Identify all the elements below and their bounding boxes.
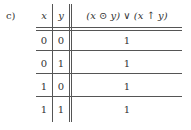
cell-x: 0 bbox=[36, 58, 52, 69]
cell-y: 0 bbox=[53, 81, 69, 92]
cell-result: 1 bbox=[72, 58, 182, 69]
truth-table: x y (x ⊙ y) ∨ (x ↑ y) 0 0 1 0 1 1 1 0 1 … bbox=[36, 0, 182, 122]
cell-x: 1 bbox=[36, 81, 52, 92]
header-divider bbox=[36, 27, 182, 28]
cell-y: 1 bbox=[53, 104, 69, 115]
row-divider bbox=[36, 96, 182, 97]
header-expression: (x ⊙ y) ∨ (x ↑ y) bbox=[72, 10, 182, 21]
header-y: y bbox=[53, 10, 69, 21]
part-label: c) bbox=[6, 10, 16, 21]
column-divider bbox=[69, 4, 70, 122]
row-divider bbox=[36, 50, 182, 51]
cell-y: 1 bbox=[53, 58, 69, 69]
cell-x: 0 bbox=[36, 35, 52, 46]
header-divider bbox=[36, 30, 182, 31]
row-divider bbox=[36, 73, 182, 74]
header-x: x bbox=[36, 10, 52, 21]
cell-x: 1 bbox=[36, 104, 52, 115]
cell-result: 1 bbox=[72, 81, 182, 92]
cell-y: 0 bbox=[53, 35, 69, 46]
cell-result: 1 bbox=[72, 35, 182, 46]
cell-result: 1 bbox=[72, 104, 182, 115]
